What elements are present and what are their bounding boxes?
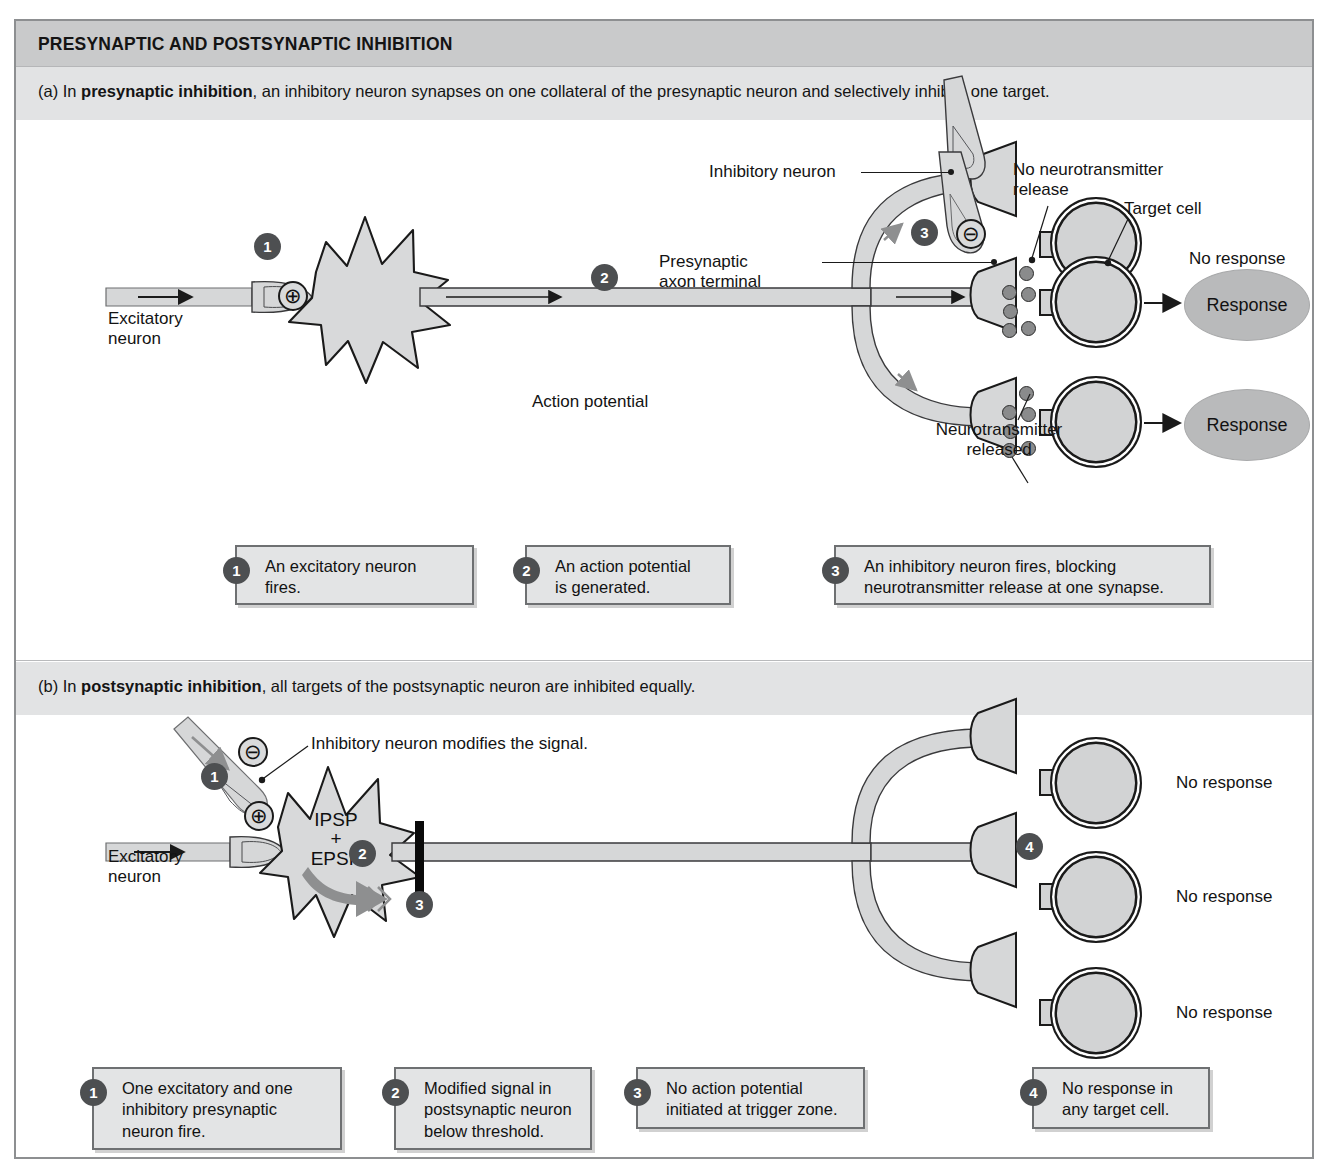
- panel-a-step-text-2: An action potential is generated.: [555, 556, 691, 599]
- panel-a-caption: (a) In presynaptic inhibition, an inhibi…: [38, 82, 1050, 101]
- neurotransmitter-released-label-a: Neurotransmitter released: [904, 420, 1094, 460]
- leader-presynaptic-a: [822, 262, 994, 263]
- step-bullet-2-a: 2: [513, 557, 540, 584]
- panel-b-step-box-1: 1 One excitatory and one inhibitory pres…: [92, 1067, 342, 1150]
- panel-a-step-box-1: 1 An excitatory neuron fires.: [235, 545, 474, 605]
- panel-a-caption-prefix: (a) In: [38, 82, 81, 100]
- step-bullet-3-a: 3: [822, 557, 849, 584]
- inhibitory-minus-sign-b: ⊖: [238, 737, 268, 767]
- vesicle: [1002, 285, 1017, 300]
- panel-b-caption-rest: , all targets of the postsynaptic neuron…: [262, 677, 696, 695]
- panel-b-step-text-1: One excitatory and one inhibitory presyn…: [122, 1078, 293, 1142]
- step-bullet-2-b: 2: [382, 1079, 409, 1106]
- vesicle: [1021, 321, 1036, 336]
- step-marker-3-a: 3: [911, 219, 938, 246]
- step-marker-2-b: 2: [349, 840, 376, 867]
- step-bullet-3-b: 3: [624, 1079, 651, 1106]
- vesicle: [1019, 266, 1034, 281]
- panel-divider: [16, 660, 1312, 661]
- no-response-label-a: No response: [1189, 249, 1285, 269]
- target-cell-2-a: [1050, 256, 1142, 348]
- step-marker-2-a: 2: [591, 264, 618, 291]
- target-cell-label-a: Target cell: [1124, 199, 1201, 219]
- panel-a-caption-rest: , an inhibitory neuron synapses on one c…: [253, 82, 1050, 100]
- inhibitory-neuron-label-a: Inhibitory neuron: [709, 162, 836, 182]
- leader-neurotransmitter-a2: [1006, 457, 1086, 507]
- target-cell-1-b: [1050, 737, 1142, 829]
- panel-b-step-text-3: No action potential initiated at trigger…: [666, 1078, 838, 1121]
- excitatory-plus-sign-b: ⊕: [244, 801, 274, 831]
- panel-b-step-text-2: Modified signal in postsynaptic neuron b…: [424, 1078, 572, 1142]
- panel-a-caption-band: (a) In presynaptic inhibition, an inhibi…: [16, 67, 1312, 120]
- panel-b-caption-bold: postsynaptic inhibition: [81, 677, 262, 695]
- figure-page: PRESYNAPTIC AND POSTSYNAPTIC INHIBITION …: [0, 0, 1332, 1174]
- no-neurotransmitter-release-label-a: No neurotransmitter release: [1013, 160, 1163, 200]
- figure-title-bar: PRESYNAPTIC AND POSTSYNAPTIC INHIBITION: [16, 21, 1312, 67]
- figure-title: PRESYNAPTIC AND POSTSYNAPTIC INHIBITION: [38, 34, 453, 55]
- step-bullet-1-a: 1: [223, 557, 250, 584]
- panel-b-step-box-3: 3 No action potential initiated at trigg…: [636, 1067, 865, 1129]
- panel-a-step-text-1: An excitatory neuron fires.: [265, 556, 416, 599]
- vesicle: [1021, 287, 1036, 302]
- vesicle: [1003, 304, 1018, 319]
- excitatory-neuron-label-a: Excitatory neuron: [108, 309, 183, 349]
- step-marker-3-b: 3: [406, 891, 433, 918]
- inhibitory-modifies-label-b: Inhibitory neuron modifies the signal.: [311, 734, 588, 754]
- panel-b-step-box-2: 2 Modified signal in postsynaptic neuron…: [394, 1067, 592, 1150]
- panel-b-caption-prefix: (b) In: [38, 677, 81, 695]
- figure-frame: PRESYNAPTIC AND POSTSYNAPTIC INHIBITION …: [14, 19, 1314, 1159]
- response-label-1-a: Response: [1185, 295, 1309, 316]
- leader-inhibitory-a: [861, 172, 951, 173]
- no-response-label-3-b: No response: [1176, 1003, 1272, 1023]
- inhibitory-minus-sign-a: ⊖: [956, 219, 986, 249]
- panel-b-step-box-4: 4 No response in any target cell.: [1032, 1067, 1210, 1129]
- step-marker-4-b: 4: [1016, 833, 1043, 860]
- response-label-2-a: Response: [1185, 415, 1309, 436]
- panel-b-step-text-4: No response in any target cell.: [1062, 1078, 1173, 1121]
- step-bullet-4-b: 4: [1020, 1079, 1047, 1106]
- panel-a-caption-bold: presynaptic inhibition: [81, 82, 252, 100]
- response-oval-1-a: Response: [1184, 269, 1310, 341]
- target-cell-3-b: [1050, 967, 1142, 1059]
- leader-dot: [991, 259, 997, 265]
- presynaptic-terminal-label-a: Presynaptic axon terminal: [659, 252, 761, 292]
- panel-a-step-text-3: An inhibitory neuron fires, blocking neu…: [864, 556, 1164, 599]
- response-oval-2-a: Response: [1184, 389, 1310, 461]
- excitatory-neuron-label-b: Excitatory neuron: [108, 847, 183, 887]
- panel-b-caption-band: (b) In postsynaptic inhibition, all targ…: [16, 662, 1312, 715]
- vesicle: [1002, 405, 1017, 420]
- step-marker-1-b: 1: [201, 763, 228, 790]
- vesicle: [1019, 386, 1034, 401]
- no-response-label-2-b: No response: [1176, 887, 1272, 907]
- panel-a-step-box-3: 3 An inhibitory neuron fires, blocking n…: [834, 545, 1211, 605]
- action-potential-label-a: Action potential: [532, 392, 648, 412]
- vesicle: [1002, 323, 1017, 338]
- leader-dot: [948, 169, 954, 175]
- excitatory-plus-sign-a: ⊕: [278, 281, 308, 311]
- step-bullet-1-b: 1: [80, 1079, 107, 1106]
- no-response-label-1-b: No response: [1176, 773, 1272, 793]
- target-cell-2-b: [1050, 851, 1142, 943]
- panel-a-step-box-2: 2 An action potential is generated.: [525, 545, 731, 605]
- panel-b-caption: (b) In postsynaptic inhibition, all targ…: [38, 677, 695, 696]
- step-marker-1-a: 1: [254, 233, 281, 260]
